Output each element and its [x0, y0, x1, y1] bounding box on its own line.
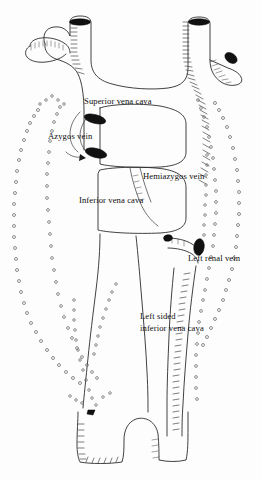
ostium-small-marker	[87, 410, 95, 415]
lymph-node-chain-right-trunk	[203, 154, 209, 237]
ostium-azygos-vein	[83, 112, 106, 126]
label-azygos-vein: Azygos vein	[48, 131, 93, 141]
label-left-sided-ivc-line1: Left sided	[140, 311, 176, 321]
lymph-node-chain-left-outer	[13, 109, 82, 385]
venous-anatomy-illustration: Superior vena cava Azygos vein Hemiazygo…	[0, 0, 261, 480]
ostium-right-subclavian	[223, 50, 239, 65]
ostium-superior-vena-cava	[70, 19, 91, 25]
lymph-node-chain-mid-left	[93, 283, 118, 356]
anatomy-figure: Superior vena cava Azygos vein Hemiazygo…	[0, 0, 261, 480]
left-sided-ivc-trunk	[167, 266, 196, 436]
label-superior-vena-cava: Superior vena cava	[84, 96, 152, 106]
lymph-node-cluster-lower-mid	[69, 392, 112, 405]
label-left-renal-vein: Left renal vein	[188, 253, 241, 263]
upper-left-branch	[26, 38, 70, 63]
iliac-bifurcation	[77, 412, 188, 464]
medial-ivc-trunk	[83, 234, 148, 412]
lymph-node-cluster-upper-left	[39, 95, 66, 106]
ostium-hemiazygos-vein	[84, 146, 108, 160]
ostium-right-upper-branch	[189, 19, 210, 25]
label-group: Superior vena cava Azygos vein Hemiazygo…	[48, 96, 241, 333]
label-hemiazygos-vein: Hemiazygos vein	[143, 171, 205, 181]
ostium-accessory-vein	[163, 234, 173, 242]
lymph-node-chain-right-outer	[202, 102, 241, 347]
vessel-ostia-group	[70, 19, 240, 415]
label-inferior-vena-cava: Inferior vena cava	[79, 195, 143, 205]
label-left-sided-ivc-line2: inferior vena cava	[140, 323, 204, 333]
central-chamber	[98, 104, 186, 233]
